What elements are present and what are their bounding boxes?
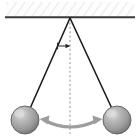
left-bob xyxy=(11,106,39,134)
ceiling-hatch-band xyxy=(6,2,134,17)
pendulum-diagram-svg xyxy=(0,0,140,137)
right-bob xyxy=(103,106,131,134)
right-bob-highlight xyxy=(106,109,116,117)
pendulum-figure xyxy=(0,0,140,137)
ceiling-support xyxy=(5,2,135,17)
left-bob-highlight xyxy=(14,109,24,117)
left-bob-sphere xyxy=(11,106,39,134)
right-bob-sphere xyxy=(103,106,131,134)
